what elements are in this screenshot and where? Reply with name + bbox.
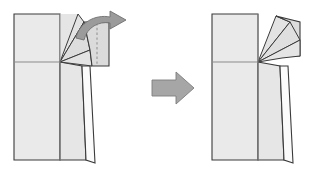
paper-main-body: [14, 14, 60, 160]
step-arrow-shape: [152, 72, 194, 104]
paper-main-body-after: [212, 14, 258, 160]
origami-diagram: [0, 0, 310, 173]
panel-after: [212, 14, 300, 163]
origami-figure-svg: [0, 0, 310, 173]
panel-before: [14, 11, 126, 163]
step-arrow: [152, 72, 194, 104]
